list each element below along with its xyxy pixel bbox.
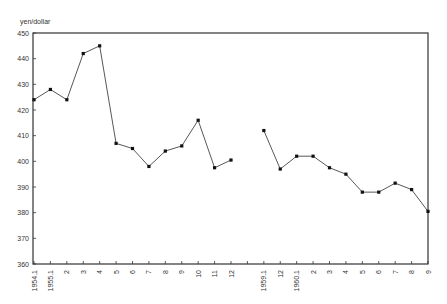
- data-point-marker: [279, 167, 282, 170]
- x-tick-label: 12: [228, 270, 235, 278]
- data-point-marker: [32, 98, 35, 101]
- data-point-marker: [361, 191, 364, 194]
- x-axis: 1954.11955.1234567891011121959.1121960.1…: [31, 261, 432, 291]
- data-point-marker: [410, 188, 413, 191]
- x-tick-label: 6: [375, 270, 382, 274]
- x-tick-label: 6: [129, 270, 136, 274]
- x-tick-label: 8: [162, 270, 169, 274]
- x-tick-label: 9: [178, 270, 185, 274]
- data-point-marker: [295, 155, 298, 158]
- data-point-marker: [328, 166, 331, 169]
- x-tick-label: 5: [113, 270, 120, 274]
- x-tick-label: 7: [145, 270, 152, 274]
- data-point-marker: [311, 155, 314, 158]
- data-point-marker: [229, 158, 232, 161]
- x-tick-label: 2: [63, 270, 70, 274]
- x-tick-label: 1960.1: [293, 270, 300, 292]
- data-point-marker: [344, 173, 347, 176]
- x-tick-label: 5: [359, 270, 366, 274]
- plot-frame: [33, 33, 428, 264]
- series-line: [264, 131, 428, 212]
- x-tick-label: 11: [211, 270, 218, 277]
- data-point-marker: [114, 142, 117, 145]
- x-tick-label: 4: [96, 270, 103, 274]
- y-tick-label: 440: [17, 55, 29, 62]
- y-tick-label: 450: [17, 30, 29, 37]
- x-tick-label: 1955.1: [47, 270, 54, 292]
- data-point-marker: [213, 166, 216, 169]
- x-tick-label: 1954.1: [31, 270, 38, 292]
- x-tick-label: 10: [195, 270, 202, 278]
- x-tick-label: 8: [408, 270, 415, 274]
- y-tick-label: 380: [17, 209, 29, 216]
- data-point-marker: [131, 147, 134, 150]
- data-point-marker: [65, 98, 68, 101]
- x-tick-label: 1959.1: [260, 270, 267, 292]
- y-tick-label: 430: [17, 81, 29, 88]
- y-tick-label: 390: [17, 184, 29, 191]
- y-tick-label: 360: [17, 261, 29, 268]
- x-tick-label: 7: [392, 270, 399, 274]
- x-tick-label: 3: [80, 270, 87, 274]
- y-axis-label: yen/dollar: [20, 18, 51, 26]
- data-point-marker: [180, 144, 183, 147]
- data-point-marker: [394, 182, 397, 185]
- x-tick-label: 2: [310, 270, 317, 274]
- y-tick-label: 410: [17, 132, 29, 139]
- y-tick-label: 420: [17, 107, 29, 114]
- data-series: [32, 44, 429, 213]
- y-tick-label: 370: [17, 235, 29, 242]
- x-tick-label: 4: [342, 270, 349, 274]
- data-point-marker: [49, 88, 52, 91]
- x-tick-label: 9: [425, 270, 432, 274]
- data-point-marker: [426, 210, 429, 213]
- x-tick-label: 12: [277, 270, 284, 278]
- data-point-marker: [197, 119, 200, 122]
- data-point-marker: [262, 129, 265, 132]
- line-chart: yen/dollar 36037038039040041042043044045…: [0, 0, 447, 304]
- data-point-marker: [164, 149, 167, 152]
- data-point-marker: [82, 52, 85, 55]
- data-point-marker: [98, 44, 101, 47]
- y-tick-label: 400: [17, 158, 29, 165]
- x-tick-label: 3: [326, 270, 333, 274]
- data-point-marker: [147, 165, 150, 168]
- data-point-marker: [377, 191, 380, 194]
